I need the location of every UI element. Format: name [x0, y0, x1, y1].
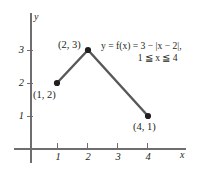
data-point-marker-3 — [145, 113, 151, 119]
data-point-label-1: (1, 2) — [33, 90, 56, 101]
data-point-label-2: (2, 3) — [58, 40, 81, 51]
data-point-label-3: (4, 1) — [133, 122, 156, 133]
function-curve — [0, 0, 197, 169]
equation-annotation: y = f(x) = 3 − |x − 2|, 1 ≦ x ≦ 4 — [101, 40, 182, 64]
function-graph-figure: x y 1 2 3 4 1 2 3 (1, 2) (2, 3) (4, 1) y… — [0, 0, 197, 169]
data-point-marker-2 — [85, 47, 91, 53]
domain-text: 1 ≦ x ≦ 4 — [101, 52, 182, 64]
data-point-marker-1 — [54, 80, 60, 86]
equation-text: y = f(x) = 3 − |x − 2|, — [101, 40, 182, 51]
